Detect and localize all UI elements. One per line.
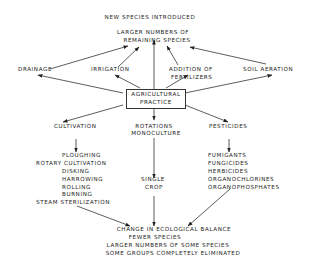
outcome-line: LARGER NUMBERS OF SOME SPECIES: [107, 242, 230, 250]
cultivation-item: DISKING: [62, 168, 90, 176]
rotations-line2: MONOCULTURE: [131, 130, 181, 138]
pesticide-item: ORGANOPHOSPHATES: [208, 184, 280, 192]
new-species-label: NEW SPECIES INTRODUCED: [105, 14, 196, 22]
fertilizers-line1: ADDITION OF: [169, 66, 213, 74]
single-crop-line2: CROP: [145, 184, 163, 192]
agricultural-practice-box: AGRICULTURAL PRACTICE: [126, 89, 186, 109]
cultivation-item: HARROWING: [62, 176, 103, 184]
single-crop-line1: SINGLE: [141, 176, 165, 184]
pesticide-item: ORGANOCHLORINES: [208, 176, 274, 184]
pesticides-node: PESTICIDES: [209, 123, 247, 131]
cultivation-item: ROTARY CULTIVATION: [36, 160, 107, 168]
outcome-line: CHANGE IN ECOLOGICAL BALANCE: [117, 226, 231, 234]
outcome-line: FEWER SPECIES: [129, 234, 181, 242]
pesticide-item: HERBICIDES: [208, 168, 248, 176]
cultivation-item: BURNING: [62, 191, 92, 199]
center-line2: PRACTICE: [140, 99, 172, 107]
fertilizers-line2: FERTILIZERS: [171, 74, 212, 82]
soil-aeration-node: SOIL AERATION: [243, 66, 293, 74]
larger-numbers-line2: REMAINING SPECIES: [123, 37, 190, 45]
cultivation-node: CULTIVATION: [54, 123, 97, 131]
larger-numbers-line1: LARGER NUMBERS OF: [117, 29, 189, 37]
pesticide-item: FUMIGANTS: [208, 152, 247, 160]
pesticide-item: FUNGICIDES: [208, 160, 248, 168]
drainage-node: DRAINAGE: [18, 66, 52, 74]
irrigation-node: IRRIGATION: [91, 66, 129, 74]
outcome-line: SOME GROUPS COMPLETELY ELIMINATED: [106, 250, 241, 258]
cultivation-item: STEAM STERILIZATION: [36, 199, 110, 207]
center-line1: AGRICULTURAL: [131, 91, 180, 99]
cultivation-item: PLOUGHING: [62, 152, 101, 160]
